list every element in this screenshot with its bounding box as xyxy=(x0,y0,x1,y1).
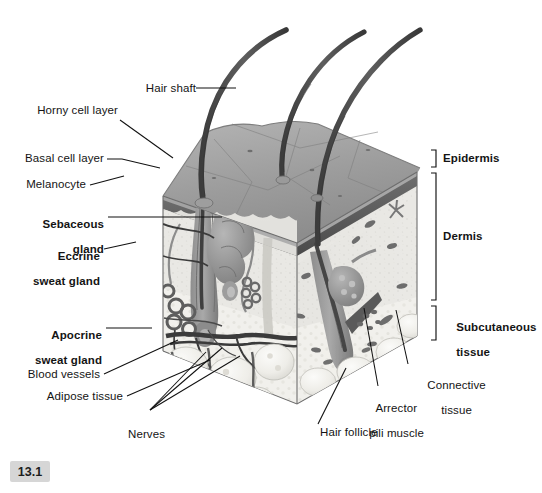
leader-basal-cell-layer xyxy=(107,159,160,168)
label-hair-shaft: Hair shaft xyxy=(120,82,196,95)
leader-arrector-pili xyxy=(364,308,378,386)
leader-melanocyte xyxy=(90,176,124,185)
label-eccrine-sweat-gland: Eccrine sweat gland xyxy=(10,237,100,300)
label-horny-cell-layer: Horny cell layer xyxy=(26,104,118,117)
label-basal-cell-layer: Basal cell layer xyxy=(14,152,104,165)
leader-nerves-2 xyxy=(150,348,222,410)
bracket-subcutaneous xyxy=(431,306,436,340)
leader-horny-cell-layer xyxy=(120,120,173,158)
leader-lines xyxy=(90,88,408,424)
leader-hair-follicle xyxy=(318,368,346,424)
bracket-epidermis xyxy=(431,150,436,167)
label-nerves: Nerves xyxy=(128,428,180,441)
label-dermis: Dermis xyxy=(443,230,513,243)
skin-structure-figure: Hair shaft Horny cell layer Basal cell l… xyxy=(0,0,542,493)
label-connective-tissue: Connective tissue xyxy=(412,366,488,429)
leader-blood-vessels xyxy=(104,340,178,374)
label-blood-vessels: Blood vessels xyxy=(20,368,100,381)
bracket-dermis xyxy=(431,173,436,300)
figure-number: 13.1 xyxy=(10,461,50,482)
leader-eccrine-gland xyxy=(104,242,136,249)
label-epidermis: Epidermis xyxy=(443,152,523,165)
label-subcutaneous-tissue: Subcutaneous tissue xyxy=(443,308,539,371)
label-melanocyte: Melanocyte xyxy=(22,178,86,191)
layer-brackets xyxy=(431,150,436,340)
label-adipose-tissue: Adipose tissue xyxy=(36,390,123,403)
leader-connective-tissue xyxy=(396,310,408,364)
